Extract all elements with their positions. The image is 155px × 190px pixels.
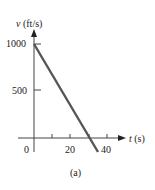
x-tick-label-0: 0 xyxy=(24,144,29,155)
y-axis-label: v (ft/s) xyxy=(16,18,42,30)
x-tick-label-20: 20 xyxy=(65,144,75,155)
x-axis-label: t (s) xyxy=(129,133,145,145)
y-axis-arrow-icon xyxy=(31,29,37,37)
velocity-chart: v (ft/s) 1000 500 0 20 40 t (s) (a) xyxy=(0,0,155,190)
velocity-line xyxy=(34,44,98,152)
y-tick-label-1000: 1000 xyxy=(6,38,26,49)
figure-caption: (a) xyxy=(70,167,81,179)
x-axis-arrow-icon xyxy=(118,135,126,141)
y-tick-label-500: 500 xyxy=(12,85,27,96)
x-ticks xyxy=(52,134,107,138)
x-tick-label-40: 40 xyxy=(101,144,111,155)
